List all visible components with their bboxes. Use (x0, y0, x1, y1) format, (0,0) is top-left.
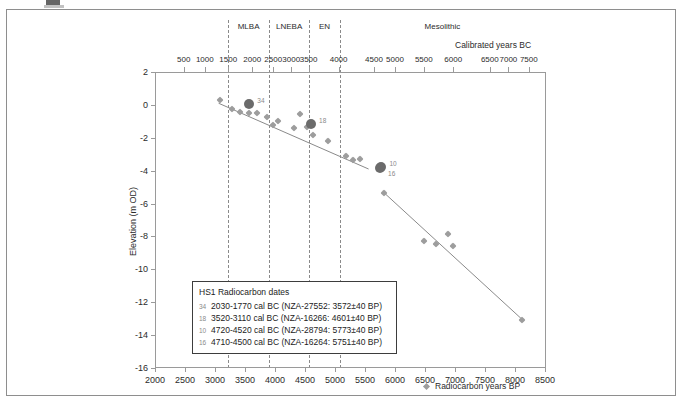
period-label-en: EN (319, 22, 330, 31)
x-axis-tick (395, 368, 396, 372)
data-point-index-label: 10 (389, 159, 396, 166)
data-point-index-label: 34 (257, 97, 264, 104)
period-label-mesolithic: Mesolithic (425, 22, 461, 31)
radiocarbon-date-index: 16 (199, 338, 211, 347)
x-axis-tick (485, 368, 486, 372)
dated-sample-point (306, 119, 316, 129)
y-axis-tick-label: -4 (125, 166, 148, 176)
top-axis-tick-label: 3500 (300, 55, 318, 64)
top-axis-tick-label: 7000 (499, 55, 517, 64)
top-axis-tick-label: 4500 (365, 55, 383, 64)
top-axis-tick-label: 7500 (520, 55, 538, 64)
x-axis-tick (365, 368, 366, 372)
diamond-marker-icon (423, 382, 430, 389)
x-axis-tick-label: 3500 (235, 375, 255, 385)
radiocarbon-date-index: 34 (199, 302, 211, 311)
x-axis-tick (545, 368, 546, 372)
top-axis-title: Calibrated years BC (455, 40, 531, 50)
x-axis-tick (185, 368, 186, 372)
x-axis-tick-label: 2500 (175, 375, 195, 385)
y-axis-tick (151, 236, 155, 237)
x-axis-tick (515, 368, 516, 372)
radiocarbon-date-row: 342030-1770 cal BC (NZA-27552: 3572±40 B… (199, 300, 390, 312)
x-axis-tick-label: 8500 (535, 375, 555, 385)
top-axis-tick-label: 2000 (243, 55, 261, 64)
plot-right-border (545, 72, 546, 368)
y-axis-tick-label: -12 (125, 297, 148, 307)
y-axis-tick (151, 72, 155, 73)
period-label-mlba: MLBA (238, 22, 260, 31)
x-axis-tick (305, 368, 306, 372)
y-axis-tick (151, 204, 155, 205)
x-axis-tick-label: 2000 (145, 375, 165, 385)
x-axis-tick (245, 368, 246, 372)
caption-fragment-underline (44, 5, 64, 8)
top-axis-tick-label: 5500 (415, 55, 433, 64)
x-axis-tick-label: 3000 (205, 375, 225, 385)
top-axis-tick-label: 1500 (219, 55, 237, 64)
y-axis-tick (151, 171, 155, 172)
radiocarbon-dates-box: HS1 Radiocarbon dates 342030-1770 cal BC… (192, 281, 397, 354)
y-axis-tick (151, 269, 155, 270)
radiocarbon-date-text: 4710-4500 cal BC (NZA-16264: 5751±40 BP) (211, 336, 382, 348)
top-axis-tick-label: 6500 (481, 55, 499, 64)
radiocarbon-date-text: 3520-3110 cal BC (NZA-16266: 4601±40 BP) (211, 312, 381, 324)
y-axis-tick-label: -16 (125, 363, 148, 373)
y-axis-tick-label: -10 (125, 264, 148, 274)
x-axis-tick (425, 368, 426, 372)
radiocarbon-date-row: 104720-4520 cal BC (NZA-28794: 5773±40 B… (199, 324, 390, 336)
data-point-index-label: 18 (319, 116, 326, 123)
y-axis-tick (151, 138, 155, 139)
y-axis-title: Elevation (m OD) (128, 187, 138, 256)
x-axis-tick-label: 4000 (265, 375, 285, 385)
series-legend: Radiocarbon years BP (424, 381, 520, 391)
y-axis-tick-label: 0 (125, 100, 148, 110)
top-axis-tick-label: 5000 (386, 55, 404, 64)
top-axis-tick-label: 4000 (330, 55, 348, 64)
x-axis-tick-label: 4500 (295, 375, 315, 385)
radiocarbon-date-index: 18 (199, 314, 211, 323)
top-axis-tick-label: 2500 (264, 55, 282, 64)
y-axis-tick-label: 2 (125, 67, 148, 77)
x-axis-tick-label: 6000 (385, 375, 405, 385)
radiocarbon-date-text: 4720-4520 cal BC (NZA-28794: 5773±40 BP) (211, 324, 382, 336)
y-axis-tick-label: -2 (125, 133, 148, 143)
radiocarbon-date-index: 10 (199, 326, 211, 335)
y-axis-tick (151, 335, 155, 336)
y-axis-tick (151, 105, 155, 106)
radiocarbon-dates-rows: 342030-1770 cal BC (NZA-27552: 3572±40 B… (199, 300, 390, 348)
x-axis-tick-label: 5000 (325, 375, 345, 385)
x-axis-tick (335, 368, 336, 372)
top-axis-tick-label: 500 (177, 55, 190, 64)
period-label-lneba: LNEBA (276, 22, 302, 31)
x-axis-tick (275, 368, 276, 372)
radiocarbon-date-row: 164710-4500 cal BC (NZA-16264: 5751±40 B… (199, 336, 390, 348)
x-axis-tick-label: 5500 (355, 375, 375, 385)
series-legend-label: Radiocarbon years BP (435, 381, 520, 391)
radiocarbon-date-text: 2030-1770 cal BC (NZA-27552: 3572±40 BP) (211, 300, 382, 312)
dated-sample-point (244, 99, 254, 109)
top-axis-tick-label: 1000 (196, 55, 214, 64)
x-axis-tick (455, 368, 456, 372)
y-axis-tick-label: -14 (125, 330, 148, 340)
radiocarbon-date-row: 183520-3110 cal BC (NZA-16266: 4601±40 B… (199, 312, 390, 324)
data-point-index-label: 16 (388, 170, 395, 177)
top-axis-tick-label: 6000 (444, 55, 462, 64)
x-axis-tick (155, 368, 156, 372)
top-axis-tick-label: 3000 (282, 55, 300, 64)
y-axis-tick (151, 302, 155, 303)
x-axis-tick (215, 368, 216, 372)
dated-sample-point (375, 163, 385, 173)
radiocarbon-dates-title: HS1 Radiocarbon dates (199, 287, 390, 297)
